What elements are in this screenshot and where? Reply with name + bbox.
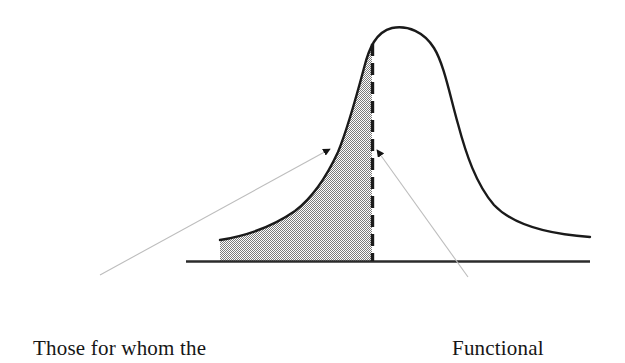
- right-annotation-line-1: Functional: [452, 335, 559, 362]
- right-annotation-label: Functional Competence: [452, 281, 559, 363]
- distribution-curve: [220, 27, 590, 240]
- right-leader-line: [377, 150, 468, 277]
- shaded-region: [220, 42, 372, 261]
- left-annotation-line-1: Those for whom the: [33, 335, 229, 362]
- left-annotation-label: Those for whom the system has not worked: [33, 281, 229, 363]
